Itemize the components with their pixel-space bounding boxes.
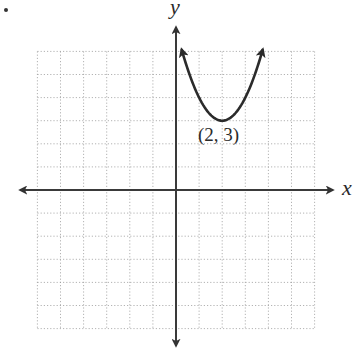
vertex-label: (2, 3) <box>198 124 239 146</box>
coordinate-plane <box>0 0 359 351</box>
x-axis-label: x <box>342 175 352 201</box>
y-axis-label: y <box>170 0 180 20</box>
